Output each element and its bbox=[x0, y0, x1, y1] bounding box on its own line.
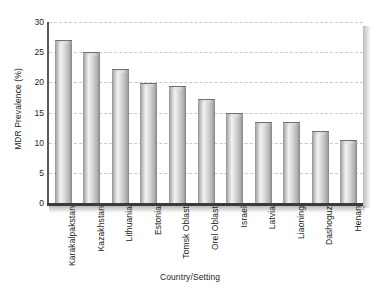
bar-cap bbox=[283, 123, 300, 126]
y-tick-label: 0 bbox=[18, 198, 44, 208]
bar-cap bbox=[340, 141, 357, 144]
x-tick-label: Orel Oblast bbox=[210, 206, 220, 250]
x-tick-label: Henan bbox=[353, 206, 363, 232]
bar[interactable] bbox=[312, 131, 329, 203]
bar-cap bbox=[312, 132, 329, 135]
bar[interactable] bbox=[140, 83, 157, 203]
x-tick-label: Karakalpakstan bbox=[67, 206, 77, 266]
bar-slot bbox=[312, 22, 329, 203]
bar-cap bbox=[255, 123, 272, 126]
bar-slot bbox=[112, 22, 129, 203]
bar-slot bbox=[55, 22, 72, 203]
bar-slot bbox=[83, 22, 100, 203]
y-tick-label: 15 bbox=[18, 108, 44, 118]
bar-slot bbox=[226, 22, 243, 203]
bar[interactable] bbox=[226, 113, 243, 203]
bar-cap bbox=[226, 114, 243, 117]
bar[interactable] bbox=[55, 40, 72, 203]
y-tick-label: 10 bbox=[18, 138, 44, 148]
bar-slot bbox=[340, 22, 357, 203]
y-tick-label: 30 bbox=[18, 17, 44, 27]
plot-area bbox=[47, 22, 363, 203]
x-tick-label: Lithuania bbox=[124, 206, 134, 241]
x-tick-label: Tomsk Oblast bbox=[181, 206, 191, 259]
bar-cap bbox=[112, 70, 129, 73]
bar-slot bbox=[255, 22, 272, 203]
bar[interactable] bbox=[83, 52, 100, 203]
bar[interactable] bbox=[169, 86, 186, 203]
x-tick-label: Dashoguz bbox=[324, 206, 334, 245]
bar-cap bbox=[140, 84, 157, 87]
x-tick-label: Kazakhstan bbox=[96, 206, 106, 251]
x-tick-label: Latvia bbox=[267, 206, 277, 229]
bar[interactable] bbox=[255, 122, 272, 203]
y-axis-tick-labels: 051015202530 bbox=[18, 0, 44, 294]
bar[interactable] bbox=[198, 99, 215, 203]
bar-slot bbox=[140, 22, 157, 203]
bar-slot bbox=[198, 22, 215, 203]
bar[interactable] bbox=[112, 69, 129, 203]
bar-cap bbox=[198, 100, 215, 103]
y-tick-label: 20 bbox=[18, 77, 44, 87]
bar-cap bbox=[169, 87, 186, 90]
bar[interactable] bbox=[340, 140, 357, 203]
x-tick-label: Liaoning bbox=[296, 206, 306, 239]
bar-cap bbox=[55, 41, 72, 44]
bar-chart-figure: MDR Prevalence (%) 051015202530 Karakalp… bbox=[0, 0, 380, 294]
bar-slot bbox=[283, 22, 300, 203]
bar-slot bbox=[169, 22, 186, 203]
bar-series bbox=[49, 22, 363, 203]
panel-right-shadow bbox=[363, 26, 371, 208]
x-axis-title: Country/Setting bbox=[0, 272, 380, 282]
bar-cap bbox=[83, 53, 100, 56]
y-tick-label: 5 bbox=[18, 168, 44, 178]
x-tick-label: Estonia bbox=[153, 206, 163, 235]
x-tick-label: Israel bbox=[239, 206, 249, 227]
bar[interactable] bbox=[283, 122, 300, 203]
y-tick-label: 25 bbox=[18, 47, 44, 57]
